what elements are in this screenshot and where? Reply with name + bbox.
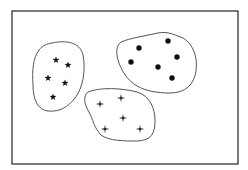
dot-icon	[165, 38, 170, 43]
cluster-diagram	[0, 0, 248, 170]
dot-icon	[169, 75, 174, 80]
dot-icon	[136, 45, 141, 50]
dot-icon	[128, 59, 133, 64]
dot-icon	[174, 54, 179, 59]
dot-icon	[155, 64, 160, 69]
